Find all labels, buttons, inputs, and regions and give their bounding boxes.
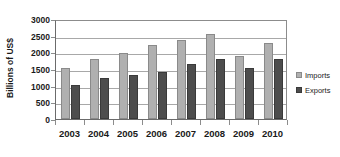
x-axis-tick-mark (229, 120, 230, 125)
bar-imports-2006 (148, 45, 157, 119)
bar-exports-2009 (245, 68, 254, 119)
y-axis-tick-mark (51, 53, 55, 54)
bar-imports-2008 (206, 34, 215, 119)
y-axis-tick-mark (51, 20, 55, 21)
bar-exports-2007 (187, 64, 196, 119)
legend-label: Exports (305, 86, 330, 95)
legend-label: Imports (305, 71, 330, 80)
y-axis-tick-label: 1500 (20, 65, 50, 75)
bar-group (177, 21, 196, 119)
y-axis-tick-label: 2500 (20, 32, 50, 42)
x-axis-tick-mark (258, 120, 259, 125)
legend-item-exports[interactable]: Exports (296, 84, 340, 96)
bar-exports-2008 (216, 59, 225, 119)
y-axis-tick-label: 0 (20, 115, 50, 125)
x-axis-tick-mark (287, 120, 288, 125)
bar-imports-2005 (119, 53, 128, 119)
bar-group (119, 21, 138, 119)
bar-imports-2003 (61, 68, 70, 119)
bar-group (90, 21, 109, 119)
y-axis-tick-mark (51, 87, 55, 88)
x-axis-tick-mark (113, 120, 114, 125)
bar-imports-2010 (264, 43, 273, 119)
y-axis-tick-mark (51, 37, 55, 38)
legend-swatch-icon (296, 87, 302, 93)
chart-legend: ImportsExports (296, 69, 340, 99)
bar-group (148, 21, 167, 119)
bar-exports-2005 (129, 75, 138, 119)
x-axis-tick-mark (55, 120, 56, 125)
bar-chart: Billions of US$ 050010001500200025003000… (0, 0, 340, 157)
y-axis-tick-labels: 050010001500200025003000 (20, 14, 50, 126)
y-axis-tick-label: 2000 (20, 48, 50, 58)
x-axis-tick-mark (171, 120, 172, 125)
y-axis-title: Billions of US$ (3, 13, 17, 123)
bar-imports-2007 (177, 40, 186, 119)
plot-area (55, 20, 287, 120)
y-axis-tick-label: 500 (20, 98, 50, 108)
bar-exports-2003 (71, 85, 80, 119)
bar-exports-2006 (158, 72, 167, 119)
x-axis-tick-mark (142, 120, 143, 125)
x-axis-tick-mark (200, 120, 201, 125)
bar-imports-2009 (235, 56, 244, 119)
y-axis-tick-label: 3000 (20, 15, 50, 25)
bar-exports-2004 (100, 78, 109, 119)
x-axis-label-2010: 2010 (253, 128, 293, 140)
bar-imports-2004 (90, 59, 99, 119)
legend-item-imports[interactable]: Imports (296, 69, 340, 81)
x-axis-tick-mark (84, 120, 85, 125)
bar-exports-2010 (274, 59, 283, 119)
bar-group (61, 21, 80, 119)
bar-group (206, 21, 225, 119)
legend-swatch-icon (296, 72, 302, 78)
y-axis-tick-label: 1000 (20, 82, 50, 92)
y-axis-tick-mark (51, 70, 55, 71)
bar-group (264, 21, 283, 119)
y-axis-tick-mark (51, 103, 55, 104)
bar-group (235, 21, 254, 119)
